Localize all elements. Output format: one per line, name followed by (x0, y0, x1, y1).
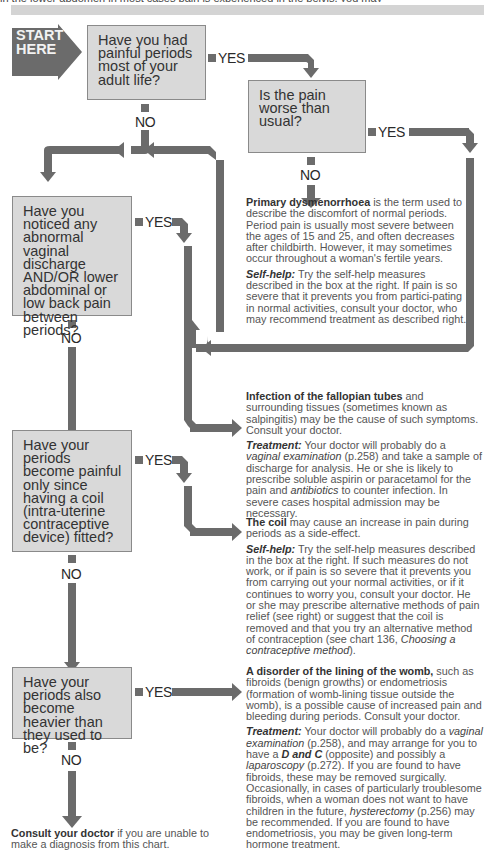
q5-no-label: NO (61, 752, 81, 768)
d-and-c-ref: D and C (281, 748, 322, 760)
q1-no-label: NO (135, 114, 155, 130)
outcome-title: The coil (246, 516, 287, 528)
q3-no-label: NO (61, 330, 81, 346)
treatment-label: Treatment: (246, 439, 302, 451)
treatment-text: (opposite) and possibly a (322, 748, 445, 760)
question-text: Have your periods become painful only si… (23, 437, 121, 545)
selfhelp-body: Try the self-help measures described in … (246, 543, 479, 645)
laparoscopy-ref: laparoscopy (246, 759, 304, 771)
hysterectomy-ref: hysterectomy (350, 805, 414, 817)
selfhelp-body: ). (349, 644, 356, 656)
question-text: Is the pain worse than usual? (259, 87, 330, 129)
q3-yes-label: YES (145, 214, 172, 230)
outcome-dysmenorrhoea: Primary dysmenorrhoea is the term used t… (246, 197, 468, 329)
start-text-line2: HERE (16, 42, 63, 56)
question-text: Have you had painful periods most of you… (98, 32, 192, 88)
q5-yes-label: YES (145, 684, 172, 700)
outcome-title: Infection of the fallopian tubes (246, 390, 403, 402)
question-box-q1[interactable]: Have you had painful periods most of you… (87, 25, 206, 100)
q2-yes-label: YES (378, 124, 405, 140)
treatment-label: Treatment: (246, 725, 302, 737)
question-box-q5[interactable]: Have your periods also become heavier th… (12, 667, 132, 739)
outcome-title: A disorder of the lining of the womb, (246, 665, 433, 677)
question-box-q2[interactable]: Is the pain worse than usual? (248, 80, 366, 153)
outcome-womb-disorder: A disorder of the lining of the womb, su… (246, 666, 484, 854)
treatment-text: Your doctor will probably do a (302, 725, 449, 737)
question-box-q4[interactable]: Have your periods become painful only si… (12, 430, 132, 552)
q4-yes-label: YES (145, 452, 172, 468)
vaginal-examination-ref: vaginal examination (246, 450, 341, 462)
selfhelp-label: Self-help: (246, 543, 295, 555)
outcome-coil: The coil may cause an increase in pain d… (246, 517, 482, 661)
antibiotics-ref: antibiotics (290, 484, 338, 496)
outcome-infection: Infection of the fallopian tubes and sur… (246, 391, 482, 523)
selfhelp-label: Self-help: (246, 268, 295, 280)
question-box-q3[interactable]: Have you noticed any abnormal vaginal di… (12, 196, 132, 316)
start-here-label: START HERE (16, 28, 63, 56)
treatment-text: Your doctor will probably do a (302, 439, 446, 451)
q1-yes-label: YES (218, 50, 245, 66)
outcome-title: Consult your doctor (11, 827, 114, 839)
outcome-title: Primary dysmenorrhoea (246, 196, 370, 208)
outcome-consult-doctor: Consult your doctor if you are unable to… (11, 828, 231, 854)
start-text-line1: START (16, 28, 63, 42)
q2-no-label: NO (300, 167, 320, 183)
q4-no-label: NO (61, 566, 81, 582)
